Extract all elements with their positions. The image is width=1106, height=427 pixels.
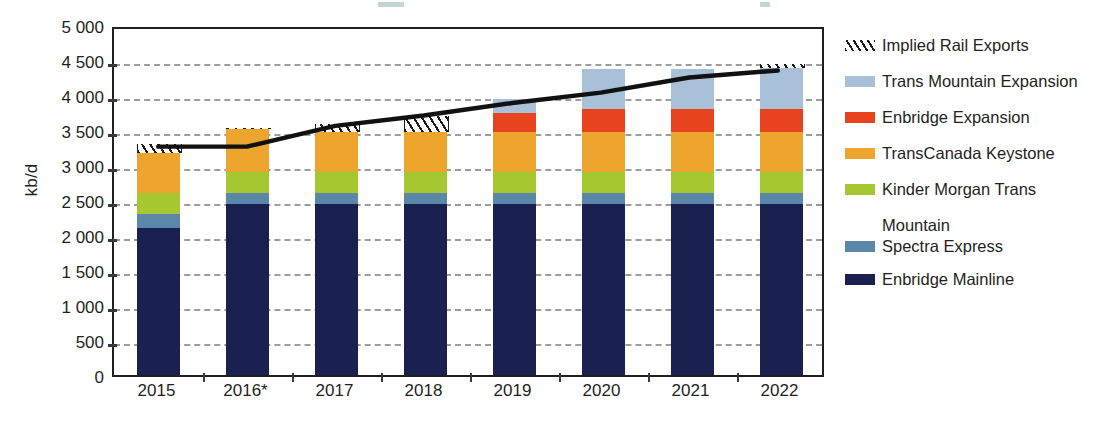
bar-segment-spectra-express xyxy=(404,193,447,204)
bar-stack[interactable] xyxy=(671,69,714,375)
x-tick-label: 2017 xyxy=(316,381,354,401)
bar-segment-transcanada-keystone xyxy=(226,129,269,172)
y-tick-label: 1 000 xyxy=(28,299,104,316)
cropped-title-remnant xyxy=(330,0,670,8)
bar-segment-trans-mountain-expansion xyxy=(760,68,803,109)
bar-segment-enbridge-expansion xyxy=(760,109,803,132)
bar-segment-enbridge-expansion xyxy=(582,109,625,132)
legend-item[interactable]: TransCanada Keystone xyxy=(845,144,1103,163)
bar-segment-implied-rail-exports xyxy=(137,144,182,153)
bar-segment-enbridge-mainline xyxy=(226,204,269,376)
bar-segment-kinder-morgan-trans-mountain xyxy=(582,172,625,193)
y-tick-label: 3 500 xyxy=(28,124,104,141)
bar-segment-enbridge-expansion xyxy=(493,113,536,133)
bar-segment-enbridge-mainline xyxy=(582,204,625,376)
x-axis-tick-labels: 20152016*201720182019202020212022 xyxy=(112,381,824,411)
bar-stack[interactable] xyxy=(493,99,536,375)
color-swatch xyxy=(845,274,875,285)
y-tick-label: 5 000 xyxy=(28,19,104,36)
bar-stack[interactable] xyxy=(137,144,180,375)
bar-segment-enbridge-mainline xyxy=(315,204,358,376)
legend-label: Spectra Express xyxy=(882,237,1003,256)
hatch-swatch xyxy=(845,40,875,51)
y-tickmark xyxy=(108,64,117,67)
y-tick-label: 4 000 xyxy=(28,89,104,106)
gridline xyxy=(114,64,822,66)
bar-segment-kinder-morgan-trans-mountain xyxy=(760,172,803,193)
bar-segment-spectra-express xyxy=(582,193,625,204)
x-tick-label: 2019 xyxy=(494,381,532,401)
bar-segment-transcanada-keystone xyxy=(671,132,714,172)
gridline xyxy=(114,274,822,276)
gridline xyxy=(114,169,822,171)
bar-segment-kinder-morgan-trans-mountain xyxy=(404,172,447,193)
bar-segment-implied-rail-exports xyxy=(404,116,449,132)
bar-stack[interactable] xyxy=(226,128,269,375)
y-tickmark xyxy=(108,169,117,172)
plot-area xyxy=(112,27,824,377)
bar-segment-spectra-express xyxy=(760,193,803,204)
y-tickmark xyxy=(108,309,117,312)
legend-item[interactable]: Enbridge Mainline xyxy=(845,270,1103,289)
bar-segment-transcanada-keystone xyxy=(404,132,447,172)
bar-segment-kinder-morgan-trans-mountain xyxy=(671,172,714,193)
y-tickmark xyxy=(108,99,117,102)
bar-segment-enbridge-mainline xyxy=(137,228,180,375)
bar-segment-kinder-morgan-trans-mountain xyxy=(137,193,180,214)
y-tick-label: 2 000 xyxy=(28,229,104,246)
y-tickmark xyxy=(108,239,117,242)
legend-item[interactable]: Implied Rail Exports xyxy=(845,36,1103,55)
bar-stack[interactable] xyxy=(315,124,358,375)
legend-label: Enbridge Expansion xyxy=(882,108,1030,127)
bar-segment-spectra-express xyxy=(226,193,269,204)
bar-segment-kinder-morgan-trans-mountain xyxy=(493,172,536,193)
chart-figure: kb/d 5 0004 5004 0003 5003 0002 5002 000… xyxy=(0,0,1106,427)
y-axis-tick-labels: 5 0004 5004 0003 5003 0002 5002 0001 500… xyxy=(28,26,104,378)
bar-segment-trans-mountain-expansion xyxy=(582,69,625,109)
legend: Implied Rail ExportsTrans Mountain Expan… xyxy=(845,36,1103,306)
legend-item[interactable]: Trans Mountain Expansion xyxy=(845,72,1103,91)
bar-segment-transcanada-keystone xyxy=(760,132,803,172)
y-tickmark xyxy=(108,134,117,137)
y-tick-label: 0 xyxy=(28,369,104,386)
bar-stack[interactable] xyxy=(760,64,803,375)
x-tick-label: 2018 xyxy=(405,381,443,401)
legend-item[interactable]: Spectra Express xyxy=(845,237,1103,256)
bar-segment-enbridge-mainline xyxy=(404,204,447,376)
y-tick-label: 3 000 xyxy=(28,159,104,176)
bar-segment-trans-mountain-expansion xyxy=(671,69,714,109)
gridline xyxy=(114,134,822,136)
legend-label: Kinder Morgan Trans xyxy=(882,180,1036,199)
bar-segment-trans-mountain-expansion xyxy=(493,99,536,112)
legend-item[interactable]: Enbridge Expansion xyxy=(845,108,1103,127)
legend-label: TransCanada Keystone xyxy=(882,144,1055,163)
y-tick-label: 1 500 xyxy=(28,264,104,281)
color-swatch xyxy=(845,241,875,252)
bar-segment-spectra-express xyxy=(671,193,714,204)
bar-segment-transcanada-keystone xyxy=(315,132,358,172)
demand-line xyxy=(114,29,822,375)
bar-segment-spectra-express xyxy=(493,193,536,204)
bar-segment-transcanada-keystone xyxy=(582,132,625,172)
bar-segment-enbridge-mainline xyxy=(760,204,803,376)
bar-stack[interactable] xyxy=(404,116,447,375)
bar-segment-spectra-express xyxy=(315,193,358,204)
y-tick-label: 4 500 xyxy=(28,54,104,71)
gridline xyxy=(114,99,822,101)
color-swatch xyxy=(845,76,875,87)
x-tick-label: 2021 xyxy=(672,381,710,401)
y-tickmark xyxy=(108,204,117,207)
bar-segment-transcanada-keystone xyxy=(493,132,536,172)
y-tickmark xyxy=(108,344,117,347)
bar-segment-transcanada-keystone xyxy=(137,153,180,193)
bar-segment-kinder-morgan-trans-mountain xyxy=(315,172,358,193)
bar-segment-enbridge-mainline xyxy=(671,204,714,376)
gridline xyxy=(114,344,822,346)
bar-stack[interactable] xyxy=(582,69,625,375)
bar-segment-implied-rail-exports xyxy=(315,124,360,132)
color-swatch xyxy=(845,184,875,195)
legend-label: Trans Mountain Expansion xyxy=(882,72,1078,91)
legend-item[interactable]: Kinder Morgan Trans xyxy=(845,180,1103,199)
legend-label-continuation: Mountain xyxy=(882,216,1103,235)
x-tick-label: 2016* xyxy=(223,381,267,401)
